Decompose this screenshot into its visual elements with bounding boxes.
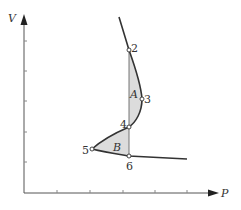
point-6-label: 6: [126, 160, 133, 173]
point-3-label: 3: [144, 93, 151, 106]
region-b-shade: [92, 127, 129, 156]
y-axis-arrow-icon: [21, 14, 28, 25]
point-4-label: 4: [120, 118, 127, 131]
point-2-label: 2: [131, 42, 138, 55]
pv-diagram: V P 2 3 4 5 6 A B: [0, 0, 241, 210]
y-axis-label: V: [8, 12, 17, 25]
point-6: [127, 154, 131, 158]
point-4: [127, 125, 131, 129]
region-b-label: B: [112, 141, 121, 154]
x-axis-arrow-icon: [208, 190, 219, 197]
point-5-label: 5: [82, 144, 89, 157]
point-5: [90, 147, 94, 151]
region-a-label: A: [129, 88, 138, 101]
x-axis-label: P: [220, 187, 229, 200]
